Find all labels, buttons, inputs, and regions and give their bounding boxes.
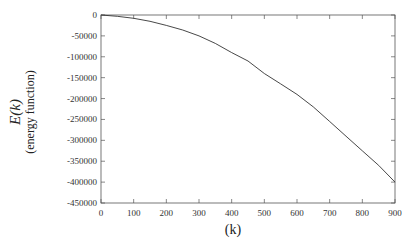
x-axis-label: (k) — [225, 222, 241, 238]
y-tick-label: 0 — [93, 10, 98, 20]
x-tick-label: 200 — [160, 208, 174, 218]
x-tick-label: 800 — [356, 208, 370, 218]
y-tick-label: -100000 — [67, 52, 97, 62]
y-tick-label: -200000 — [67, 94, 97, 104]
plot-area: 01002003004005006007008009000-50000-1000… — [0, 0, 418, 250]
y-tick-label: -400000 — [67, 177, 97, 187]
y-tick-label: -50000 — [72, 31, 98, 41]
y-tick-label: -450000 — [67, 198, 97, 208]
y-axis-label-sub: (energy function) — [23, 70, 38, 153]
x-tick-label: 0 — [99, 208, 104, 218]
y-tick-label: -300000 — [67, 135, 97, 145]
energy-curve — [101, 15, 395, 182]
plot-frame — [101, 15, 395, 203]
x-tick-label: 600 — [290, 208, 304, 218]
y-tick-label: -250000 — [67, 114, 97, 124]
x-tick-label: 500 — [258, 208, 272, 218]
x-tick-label: 300 — [192, 208, 206, 218]
x-tick-label: 900 — [388, 208, 402, 218]
y-axis-label-main: E(k) — [7, 70, 23, 153]
x-tick-label: 100 — [127, 208, 141, 218]
x-tick-label: 700 — [323, 208, 337, 218]
energy-chart: 01002003004005006007008009000-50000-1000… — [0, 0, 418, 250]
x-tick-label: 400 — [225, 208, 239, 218]
y-tick-label: -350000 — [67, 156, 97, 166]
y-tick-label: -150000 — [67, 73, 97, 83]
